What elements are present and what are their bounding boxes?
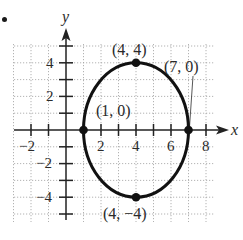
y-tick-label: 4: [46, 55, 54, 71]
point-right: [184, 126, 193, 135]
point-bottom: [132, 193, 141, 202]
y-axis-label: y: [60, 8, 70, 26]
x-tick-label: −2: [19, 138, 35, 154]
y-tick-label: 2: [46, 88, 54, 104]
point-label-bottom: (4, −4): [103, 205, 147, 223]
x-axis-label: x: [230, 121, 238, 138]
leader-line: [190, 76, 194, 127]
x-tick-label: 4: [132, 138, 140, 154]
point-label-left: (1, 0): [96, 102, 131, 120]
y-tick-label: −2: [36, 155, 52, 171]
point-label-top: (4, 4): [112, 41, 147, 59]
x-tick-label: 8: [202, 138, 210, 154]
point-top: [132, 59, 141, 68]
x-tick-label: 2: [97, 138, 105, 154]
x-tick-label: 6: [167, 138, 175, 154]
x-tick-labels: −2 2 4 6 8: [19, 138, 210, 154]
y-tick-label: −4: [36, 189, 52, 205]
point-left: [79, 126, 88, 135]
ellipse-graph: y x −2 2 4 6 8 4 2 −2 −4 (4, 4) (7, 0) (…: [0, 0, 243, 240]
y-axis: [59, 36, 73, 220]
point-label-right: (7, 0): [164, 58, 199, 76]
